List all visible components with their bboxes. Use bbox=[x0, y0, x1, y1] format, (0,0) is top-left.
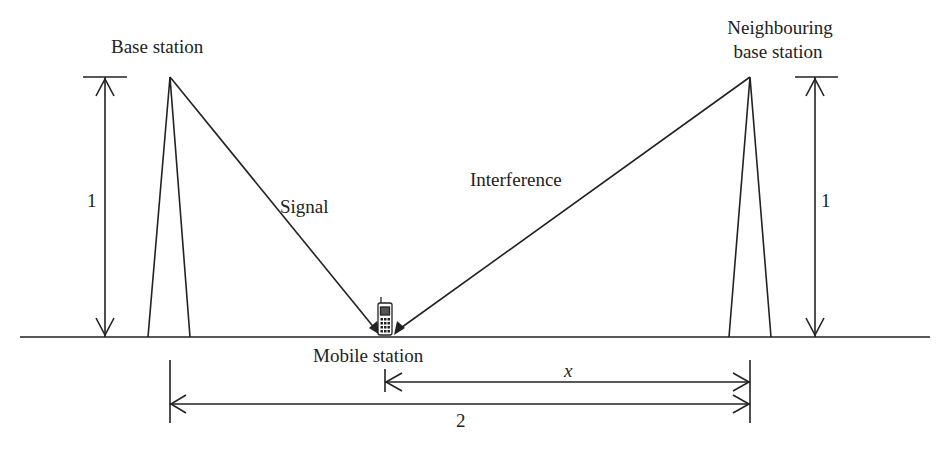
base-station-label: Base station bbox=[111, 36, 203, 58]
signal-line bbox=[170, 77, 376, 330]
neighbouring-base-station-label-line2: base station bbox=[733, 41, 822, 63]
diagram-drawing bbox=[0, 0, 950, 457]
signal-label: Signal bbox=[280, 196, 329, 218]
distance-x-label: x bbox=[564, 360, 572, 382]
mobile-station-label: Mobile station bbox=[313, 345, 423, 367]
distance-total-label: 2 bbox=[456, 410, 466, 432]
interference-line bbox=[398, 77, 750, 330]
neighbouring-base-station-tower bbox=[729, 77, 771, 337]
mobile-phone-icon bbox=[378, 297, 392, 335]
interference-label: Interference bbox=[470, 169, 562, 191]
height-right-label: 1 bbox=[821, 190, 831, 212]
height-dimension-right bbox=[795, 77, 838, 337]
base-station-tower bbox=[148, 77, 190, 337]
height-left-label: 1 bbox=[87, 190, 97, 212]
neighbouring-base-station-label-line1: Neighbouring bbox=[727, 17, 833, 39]
interference-arrowhead bbox=[394, 321, 405, 335]
diagram-canvas: Base station Neighbouring base station S… bbox=[0, 0, 950, 457]
